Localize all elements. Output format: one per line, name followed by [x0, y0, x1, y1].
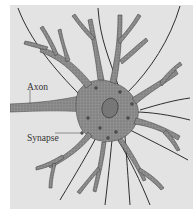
neuron-illustration — [10, 5, 193, 209]
axon-label: Axon — [27, 83, 48, 93]
synapse-label: Synapse — [27, 134, 59, 144]
figure-panel: Axon Synapse — [10, 5, 193, 209]
neuron-cell — [10, 14, 182, 194]
